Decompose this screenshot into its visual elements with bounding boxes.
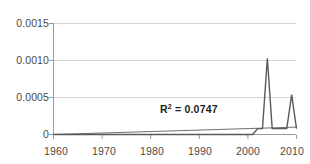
x-axis-tick-labels: 1960 1970 1980 1990 2000 2010 <box>0 0 310 164</box>
x-tick-label-1980: 1980 <box>140 146 164 157</box>
r-squared-value: = 0.0747 <box>172 103 218 115</box>
x-tick-label-1990: 1990 <box>188 146 212 157</box>
x-tick-label-2010: 2010 <box>280 146 304 157</box>
r-squared-symbol: R <box>160 103 168 115</box>
r-squared-annotation: R2 = 0.0747 <box>160 104 218 115</box>
x-tick-label-1960: 1960 <box>44 146 68 157</box>
x-tick-label-1970: 1970 <box>92 146 116 157</box>
chart-container: 0.0015 0.0010 0.0005 0 1960 1970 1980 19… <box>0 0 310 164</box>
x-tick-label-2000: 2000 <box>236 146 260 157</box>
